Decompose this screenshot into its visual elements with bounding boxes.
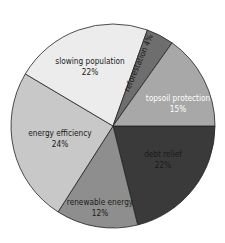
pie-chart: slowing population 22% topsoil protectio… — [0, 0, 225, 243]
label-debt-relief: debt relief — [144, 149, 182, 159]
pct-slowing-population: 22% — [82, 67, 98, 77]
label-topsoil-protection: topsoil protection — [146, 93, 211, 103]
pct-debt-relief: 22% — [155, 160, 171, 170]
pct-renewable-energy: 12% — [92, 208, 108, 218]
label-energy-efficiency: energy efficiency — [28, 128, 92, 138]
label-renewable-energy: renewable energy — [67, 197, 134, 207]
label-slowing-population: slowing population — [55, 56, 125, 66]
pct-topsoil-protection: 15% — [170, 104, 186, 114]
pct-energy-efficiency: 24% — [52, 139, 68, 149]
